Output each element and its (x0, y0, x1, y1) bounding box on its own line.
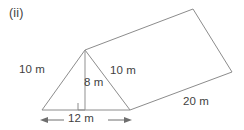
front-left-slant-edge (42, 50, 85, 110)
dimension-label-base: 12 m (68, 113, 94, 125)
part-label: (ii) (9, 7, 24, 20)
dimension-label-slant-right: 10 m (110, 65, 136, 77)
prism-body-edges (85, 9, 232, 110)
dimension-label-slant-left: 10 m (19, 64, 45, 76)
triangular-prism-figure: (ii) 10 m 8 m 10 m 20 m 12 m (0, 0, 244, 130)
dimension-label-height: 8 m (84, 77, 103, 89)
dimension-label-length: 20 m (183, 96, 209, 108)
right-angle-icon (78, 103, 85, 110)
back-right-slant-edge (193, 9, 232, 72)
ridge-edge (85, 9, 193, 50)
bottom-receding-edge (130, 72, 232, 110)
base-arrow-head-right-icon (124, 117, 132, 123)
base-arrow-head-left-icon (40, 117, 48, 123)
